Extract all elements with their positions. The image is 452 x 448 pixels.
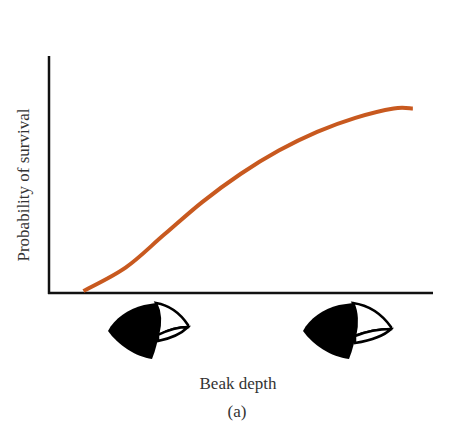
large-beak-finch-head-icon [303,303,391,359]
survival-curve [83,108,412,291]
y-axis-label: Probability of survival [14,65,34,305]
figure-caption: (a) [0,402,452,422]
x-axis-label: Beak depth [0,374,452,394]
small-beak-finch-head-icon [108,303,188,359]
